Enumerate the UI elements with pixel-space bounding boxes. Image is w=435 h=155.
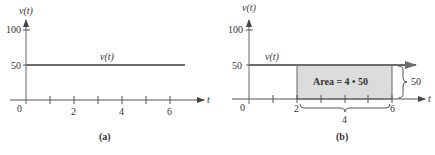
height-label: 50 [411, 76, 421, 87]
y-tick-label-50: 50 [11, 60, 21, 71]
area-label: Area = 4 • 50 [313, 76, 368, 87]
x-axis-label: t [207, 94, 210, 105]
origin-label: 0 [17, 103, 22, 114]
panel-caption-a: (a) [99, 131, 111, 143]
x-tick-label-4: 4 [119, 106, 124, 117]
x-tick-label-2: 2 [71, 106, 76, 117]
curve-label: v(t) [265, 51, 280, 63]
panel-caption-b: (b) [336, 131, 348, 143]
y-tick-label-50: 50 [232, 60, 242, 71]
height-brace [398, 66, 407, 98]
x-tick-label-2: 2 [294, 103, 299, 114]
panel-b: v(t) 100 50 v(t) Area = 4 • 50 50 0 2 6 … [228, 2, 431, 143]
panel-a: v(t) 100 50 v(t) 0 2 4 6 t (a) [6, 5, 210, 143]
y-tick-label-100: 100 [228, 24, 243, 35]
y-axis-label: v(t) [242, 2, 257, 14]
x-tick-label-6: 6 [167, 106, 172, 117]
origin-label: 0 [240, 102, 245, 113]
x-axis-label: t [428, 93, 431, 104]
y-axis-label: v(t) [19, 5, 34, 17]
y-tick-label-100: 100 [6, 24, 21, 35]
figure: v(t) 100 50 v(t) 0 2 4 6 t (a) [0, 0, 435, 155]
x-tick-label-6: 6 [390, 103, 395, 114]
width-brace [300, 104, 390, 112]
width-label: 4 [342, 114, 347, 125]
curve-label: v(t) [100, 51, 115, 63]
